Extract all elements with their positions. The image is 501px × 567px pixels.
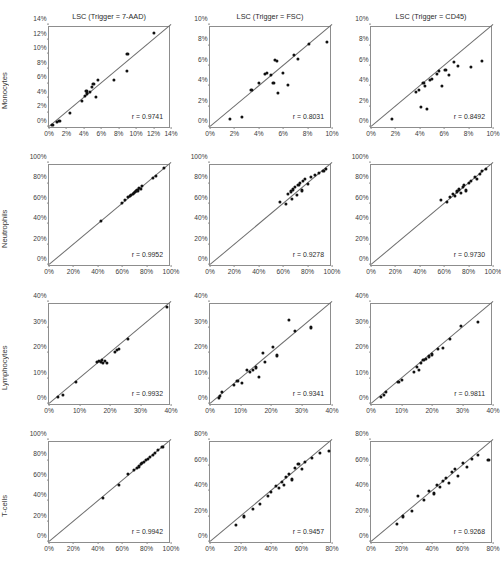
x-tick-label: 2% <box>62 130 72 137</box>
x-tick-label: 0% <box>366 130 376 137</box>
y-tick-mark <box>47 500 49 501</box>
data-point <box>88 90 91 93</box>
x-tick-mark <box>101 127 102 129</box>
y-tick-label: 0% <box>359 255 369 262</box>
plot-area-tcells-cd45: 0%20%40%60%80%0%20%40%60%80%r = 0.9268 <box>370 441 492 543</box>
x-tick-label: 30% <box>295 407 308 414</box>
y-tick-label: 10% <box>194 368 207 375</box>
data-point <box>411 510 414 513</box>
y-tick-mark <box>369 223 371 224</box>
x-tick-label: 10% <box>486 130 499 137</box>
correlation-annotation-tcells-fsc: r = 0.9457 <box>293 528 324 535</box>
y-tick-label: 0% <box>359 394 369 401</box>
data-point <box>236 380 239 383</box>
y-tick-label: 0% <box>198 117 208 124</box>
x-tick-mark <box>371 542 372 544</box>
x-tick-mark <box>146 265 147 267</box>
data-point <box>250 89 253 92</box>
x-tick-mark <box>49 265 50 267</box>
data-point <box>262 351 265 354</box>
y-tick-label: 10% <box>355 15 368 22</box>
y-tick-mark <box>47 38 49 39</box>
y-tick-mark <box>208 24 210 25</box>
y-tick-mark <box>369 65 371 66</box>
panel-neutrophils-fsc: 0%20%40%60%80%100%0%20%40%60%80%100%r = … <box>175 150 337 284</box>
row-label-t-cells: T-cells <box>0 455 14 557</box>
x-tick-mark <box>371 127 372 129</box>
data-point <box>439 198 442 201</box>
y-tick-mark <box>208 301 210 302</box>
data-point <box>426 107 429 110</box>
x-tick-label: 0% <box>44 407 54 414</box>
panel-lymphocytes-7aad: 0%10%20%30%40%0%10%20%30%40%r = 0.9932 <box>14 289 176 423</box>
x-tick-label: 80% <box>462 268 475 275</box>
x-tick-label: 8% <box>464 130 474 137</box>
data-point <box>162 167 165 170</box>
x-tick-mark <box>140 404 141 406</box>
y-tick-label: 60% <box>33 470 46 477</box>
row-label-lymphocytes: Lymphocytes <box>0 317 14 419</box>
x-tick-label: 20% <box>67 545 80 552</box>
data-point <box>318 451 321 454</box>
data-point <box>423 498 426 501</box>
data-point <box>269 73 272 76</box>
x-tick-label: 10% <box>130 130 143 137</box>
y-tick-label: 10% <box>194 15 207 22</box>
x-tick-mark <box>307 265 308 267</box>
x-tick-mark <box>332 542 333 544</box>
x-tick-mark <box>171 404 172 406</box>
y-tick-mark <box>47 243 49 244</box>
data-point <box>240 115 243 118</box>
data-point <box>463 184 466 187</box>
data-point <box>447 482 450 485</box>
x-tick-mark <box>401 542 402 544</box>
data-point <box>484 168 487 171</box>
y-tick-mark <box>369 301 371 302</box>
data-point <box>324 167 327 170</box>
y-tick-mark <box>47 520 49 521</box>
x-tick-label: 60% <box>456 545 469 552</box>
data-point <box>290 197 293 200</box>
y-tick-mark <box>47 377 49 378</box>
y-tick-mark <box>47 82 49 83</box>
x-tick-mark <box>332 404 333 406</box>
y-tick-label: 100% <box>30 430 47 437</box>
y-tick-label: 6% <box>37 73 47 80</box>
data-point <box>61 394 64 397</box>
x-tick-label: 0% <box>205 268 215 275</box>
data-point <box>306 183 309 186</box>
x-tick-mark <box>136 127 137 129</box>
x-tick-mark <box>240 404 241 406</box>
x-tick-label: 2% <box>230 130 240 137</box>
plot-area-lymphocytes-7aad: 0%10%20%30%40%0%10%20%30%40%r = 0.9932 <box>48 303 170 405</box>
y-tick-label: 10% <box>33 368 46 375</box>
x-tick-mark <box>444 265 445 267</box>
x-tick-label: 60% <box>277 268 290 275</box>
x-tick-mark <box>258 127 259 129</box>
x-tick-mark <box>171 542 172 544</box>
y-tick-label: 80% <box>33 173 46 180</box>
data-point <box>307 43 310 46</box>
y-tick-mark <box>208 439 210 440</box>
y-tick-label: 10% <box>355 368 368 375</box>
x-tick-mark <box>234 265 235 267</box>
x-tick-mark <box>49 542 50 544</box>
data-point <box>285 475 288 478</box>
y-tick-label: 20% <box>194 234 207 241</box>
y-tick-mark <box>369 490 371 491</box>
x-tick-label: 40% <box>425 545 438 552</box>
data-point <box>385 391 388 394</box>
x-tick-label: 0% <box>44 268 54 275</box>
y-tick-mark <box>369 44 371 45</box>
x-tick-label: 0% <box>205 407 215 414</box>
y-tick-label: 0% <box>359 117 369 124</box>
y-tick-label: 0% <box>37 532 47 539</box>
x-tick-label: 30% <box>134 407 147 414</box>
y-tick-label: 30% <box>355 317 368 324</box>
correlation-annotation-tcells-cd45: r = 0.9268 <box>454 528 485 535</box>
y-tick-label: 60% <box>355 455 368 462</box>
x-tick-label: 100% <box>485 268 501 275</box>
y-tick-label: 20% <box>355 234 368 241</box>
x-tick-label: 20% <box>67 268 80 275</box>
data-point <box>152 31 155 34</box>
